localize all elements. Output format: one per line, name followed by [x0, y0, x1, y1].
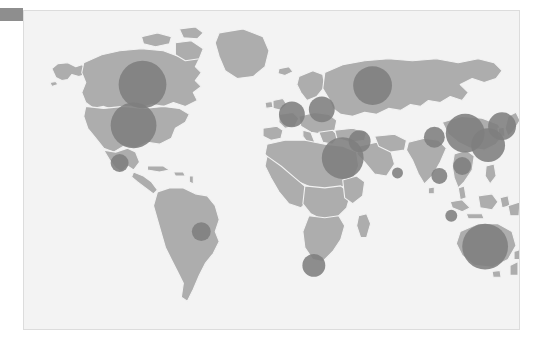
land-ireland [265, 101, 273, 108]
land-greenland [215, 29, 269, 79]
land-central-america [132, 172, 158, 194]
land-iberia [263, 126, 283, 140]
land-russia [323, 59, 502, 117]
land-scandinavia [297, 71, 325, 101]
land-southern-africa [303, 216, 345, 262]
bubble-united-states[interactable] [111, 102, 157, 148]
land-lesser-antilles [189, 176, 193, 184]
land-philippines [485, 164, 496, 184]
bubble-south-africa[interactable] [302, 254, 325, 277]
land-aleutians [50, 82, 58, 87]
page-root [0, 0, 537, 345]
map-frame[interactable] [23, 10, 520, 330]
bubble-russia[interactable] [353, 66, 392, 105]
bubble-pakistan[interactable] [424, 127, 445, 148]
corner-tab [0, 8, 23, 21]
land-iceland [278, 67, 293, 76]
land-arctic-islands [142, 33, 172, 47]
bubble-india[interactable] [431, 168, 447, 184]
bubble-brazil[interactable] [192, 222, 211, 241]
bubble-western-europe[interactable] [279, 101, 305, 127]
bubble-turkey-mid-east[interactable] [349, 130, 371, 152]
bubble-southeast-asia[interactable] [453, 157, 471, 175]
bubble-canada[interactable] [119, 61, 167, 109]
land-sumatra [450, 200, 470, 212]
land-sri-lanka [428, 187, 434, 194]
land-south-america [153, 188, 219, 301]
bubble-indonesia[interactable] [445, 210, 457, 222]
bubble-australia[interactable] [462, 224, 508, 270]
land-hispaniola [173, 172, 185, 176]
land-cuba [148, 166, 170, 172]
land-madagascar [357, 214, 371, 238]
land-java [466, 214, 484, 219]
land-malay-peninsula [458, 186, 466, 200]
land-baffin [175, 41, 203, 61]
land-ellesmere [179, 27, 203, 39]
bubble-mexico[interactable] [111, 154, 129, 172]
land-borneo [478, 194, 498, 210]
land-tasmania [492, 270, 501, 277]
land-new-zealand-north [514, 250, 519, 260]
land-new-zealand-south [510, 261, 518, 275]
bubble-central-europe[interactable] [309, 96, 335, 122]
bubble-japan-korea[interactable] [488, 112, 516, 140]
bubble-arabian-peninsula[interactable] [392, 168, 403, 179]
world-bubble-map[interactable] [24, 11, 519, 329]
